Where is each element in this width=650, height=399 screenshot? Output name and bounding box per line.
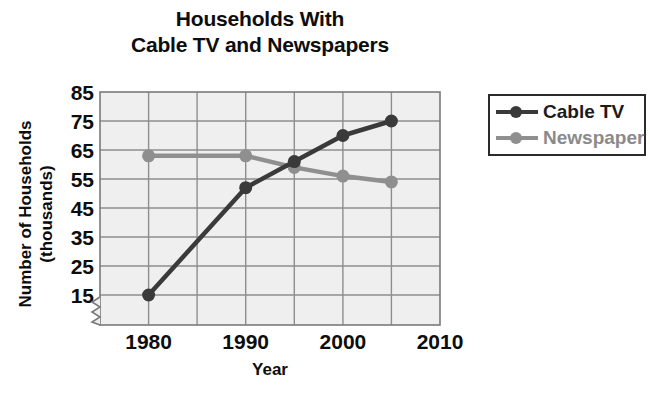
legend-label-newspaper: Newspaper — [543, 128, 644, 148]
x-axis-title: Year — [100, 360, 440, 380]
legend-label-cable-tv: Cable TV — [543, 102, 624, 122]
data-point-cable-tv — [385, 115, 398, 128]
x-tick-label: 1980 — [109, 330, 189, 354]
data-point-newspaper — [336, 170, 349, 183]
data-point-cable-tv — [336, 129, 349, 142]
legend-item-newspaper: Newspaper — [496, 125, 644, 151]
legend-item-cable-tv: Cable TV — [496, 99, 624, 125]
data-point-cable-tv — [142, 289, 155, 302]
data-point-cable-tv — [239, 181, 252, 194]
x-tick-label: 2000 — [303, 330, 383, 354]
chart-legend: Cable TV Newspaper — [488, 94, 646, 156]
data-point-newspaper — [239, 149, 252, 162]
x-tick-label: 1990 — [206, 330, 286, 354]
legend-swatch-newspaper-icon — [496, 132, 538, 144]
data-point-newspaper — [142, 149, 155, 162]
x-tick-label: 2010 — [400, 330, 480, 354]
x-axis-tick-labels: 1980 1990 2000 2010 — [0, 330, 650, 360]
data-point-newspaper — [385, 175, 398, 188]
legend-swatch-cable-tv-icon — [496, 106, 538, 118]
data-point-cable-tv — [288, 155, 301, 168]
y-axis-break-icon — [92, 297, 100, 325]
